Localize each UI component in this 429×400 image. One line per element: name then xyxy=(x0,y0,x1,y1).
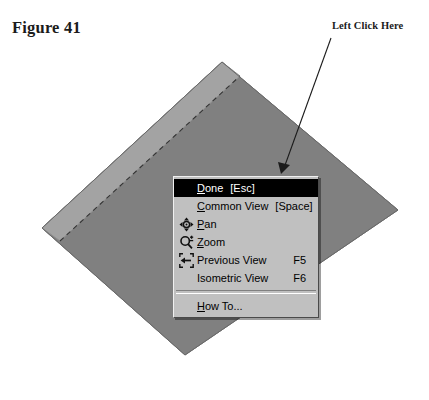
menu-icon-placeholder xyxy=(176,270,196,286)
menu-item-shortcut: [Space] xyxy=(268,197,312,215)
menu-separator xyxy=(176,290,316,294)
menu-item-common-view[interactable]: Common View[Space] xyxy=(174,197,318,215)
menu-item-label: Isometric View xyxy=(196,269,268,287)
menu-item-isometric-view[interactable]: Isometric ViewF6 xyxy=(174,269,318,287)
previous-view-icon xyxy=(176,252,196,268)
menu-item-label: Common View xyxy=(196,197,268,215)
menu-item-label: How To... xyxy=(196,297,243,315)
menu-item-label: Done xyxy=(196,179,223,197)
menu-item-how-to[interactable]: How To... xyxy=(174,297,318,315)
menu-item-label: Pan xyxy=(196,215,217,233)
menu-icon-placeholder xyxy=(176,298,196,314)
menu-item-shortcut: F5 xyxy=(293,251,314,269)
figure-caption: Figure 41 xyxy=(12,18,81,38)
zoom-icon xyxy=(176,234,196,250)
menu-item-done[interactable]: Done[Esc] xyxy=(174,179,318,197)
pan-icon xyxy=(176,216,196,232)
callout-label: Left Click Here xyxy=(332,20,403,31)
view-context-menu[interactable]: Done[Esc]Common View[Space]PanZoomPrevio… xyxy=(173,176,319,318)
menu-icon-placeholder xyxy=(176,180,196,196)
menu-item-previous-view[interactable]: Previous ViewF5 xyxy=(174,251,318,269)
menu-item-pan[interactable]: Pan xyxy=(174,215,318,233)
menu-item-shortcut: [Esc] xyxy=(223,179,254,197)
menu-item-label: Zoom xyxy=(196,233,225,251)
menu-icon-placeholder xyxy=(176,198,196,214)
menu-item-shortcut: F6 xyxy=(293,269,314,287)
menu-item-label: Previous View xyxy=(196,251,267,269)
menu-item-zoom[interactable]: Zoom xyxy=(174,233,318,251)
